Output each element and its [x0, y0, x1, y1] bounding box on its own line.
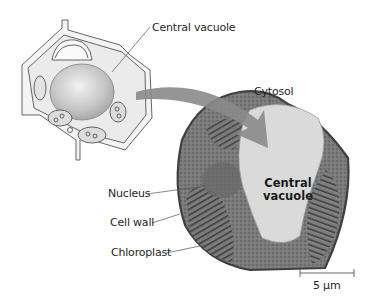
- label-cytosol: Cytosol: [254, 86, 293, 97]
- label-cell-wall: Cell wall: [110, 217, 154, 228]
- scale-bar-label: 5 µm: [313, 280, 340, 291]
- plant-cell-drawing: [22, 20, 152, 160]
- diagram: Central vacuole Cytosol Nucleus Cell wal…: [0, 0, 372, 300]
- scale-bar: [300, 269, 354, 277]
- label-central-vacuole: Central vacuole: [152, 22, 235, 33]
- label-central-vacuole-micrograph: Central vacuole: [256, 177, 320, 203]
- label-nucleus: Nucleus: [108, 188, 150, 199]
- label-chloroplast: Chloroplast: [111, 247, 171, 258]
- diagram-graphics: [0, 0, 372, 300]
- label-line-2: vacuole: [256, 190, 320, 203]
